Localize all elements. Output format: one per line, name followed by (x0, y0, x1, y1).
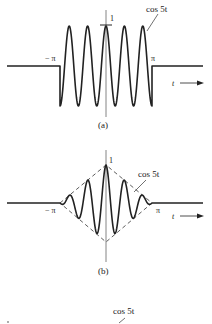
windowed-cosine-curve-a (7, 26, 203, 106)
curve-label-a: cos 5t (146, 4, 168, 14)
figure-a: cos 5t 1 − π π t (a) (7, 4, 204, 130)
partial-mark-c (7, 321, 9, 323)
t-arrow-head-icon-b (197, 214, 204, 219)
label-leader-b (134, 180, 146, 192)
t-axis-label-a: t (172, 79, 175, 88)
curve-label-c: cos 5t (113, 306, 135, 316)
figure-c-partial: cos 5t (7, 306, 135, 323)
pi-label-b: π (156, 206, 160, 215)
peak-label-a: 1 (110, 14, 114, 23)
windowed-cosine-curve-b (7, 165, 203, 233)
caption-b: (b) (98, 266, 109, 276)
pi-label-a: π (151, 54, 155, 63)
t-axis-label-b: t (172, 212, 175, 221)
minus-pi-label-a: − π (45, 54, 56, 63)
label-leader-c (119, 318, 125, 323)
figure-b: cos 5t 1 − π π t (b) (7, 150, 204, 276)
t-arrow-head-icon-a (197, 81, 204, 86)
label-leader-a (147, 14, 158, 31)
minus-pi-label-b: − π (45, 206, 56, 215)
peak-label-b: 1 (109, 156, 113, 165)
curve-label-b: cos 5t (138, 169, 160, 179)
diagram-canvas: cos 5t 1 − π π t (a) cos 5t 1 − π π t (b… (0, 0, 212, 324)
caption-a: (a) (98, 120, 108, 130)
